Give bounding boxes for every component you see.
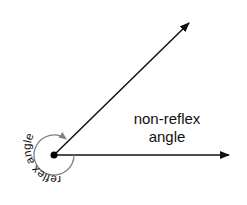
non-reflex-label-line2: angle: [149, 128, 186, 145]
non-reflex-label-line1: non-reflex: [134, 110, 201, 127]
vertex-dot: [51, 152, 58, 159]
angle-diagram: non-reflex angle reflex angle: [0, 0, 247, 205]
